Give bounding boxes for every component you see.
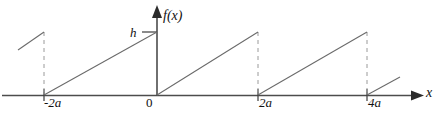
y-axis-label: f(x) — [163, 9, 182, 23]
sawtooth-figure: f(x) x h 0 -2a 2a 4a — [0, 0, 443, 117]
x-axis-label: x — [426, 86, 432, 100]
ramp-2a-to-4a — [258, 32, 367, 95]
ramp-0-to-2a — [157, 32, 258, 95]
ramp-partial-right — [367, 77, 400, 95]
x-tick-label-4a: 4a — [368, 96, 381, 109]
x-axis-arrowhead — [411, 91, 424, 101]
ramp-partial-left — [18, 32, 44, 50]
origin-label: 0 — [146, 96, 153, 109]
ramp-minus2a-to-0 — [44, 32, 157, 95]
x-tick-label-minus2a: -2a — [44, 96, 61, 109]
x-tick-label-2a: 2a — [259, 96, 272, 109]
y-axis-arrowhead — [152, 5, 162, 18]
y-tick-label-h: h — [130, 26, 137, 39]
